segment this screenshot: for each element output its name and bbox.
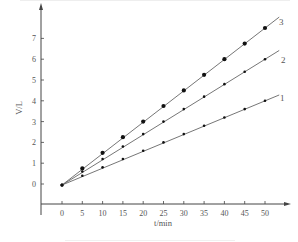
series-3: 3	[61, 17, 285, 187]
data-point-marker	[80, 166, 84, 170]
series-lines: 123	[61, 17, 286, 187]
data-point-marker	[161, 104, 165, 108]
series-line	[62, 95, 279, 185]
data-point-marker	[141, 120, 145, 124]
series-label-2: 2	[281, 55, 286, 65]
x-tick-label: 50	[261, 209, 269, 218]
y-axis-arrow-icon	[39, 3, 43, 10]
data-point-marker	[203, 95, 206, 98]
data-point-marker	[142, 149, 145, 152]
x-tick-label: 25	[160, 209, 168, 218]
x-tick-label: 0	[60, 209, 64, 218]
x-tick-label: 40	[220, 209, 228, 218]
series-label-1: 1	[280, 93, 285, 103]
data-point-marker	[243, 108, 246, 111]
data-point-marker	[122, 145, 125, 148]
series-label-3: 3	[279, 17, 284, 27]
data-point-marker	[264, 100, 267, 103]
data-point-marker	[203, 124, 206, 127]
data-point-marker	[101, 166, 104, 169]
y-tick-label: 6	[32, 55, 36, 64]
data-point-marker	[263, 26, 267, 30]
y-tick-label: 4	[32, 97, 36, 106]
data-point-marker	[222, 57, 226, 61]
x-tick-label: 35	[200, 209, 208, 218]
data-point-marker	[162, 120, 165, 123]
data-point-marker	[101, 158, 104, 161]
data-point-marker	[162, 141, 165, 144]
y-tick-label: 7	[32, 34, 36, 43]
y-tick-label: 1	[32, 159, 36, 168]
series-2: 2	[61, 50, 286, 186]
data-point-marker	[101, 151, 105, 155]
data-point-marker	[183, 108, 186, 111]
data-point-marker	[223, 83, 226, 86]
series-1: 1	[61, 93, 285, 187]
axes	[39, 3, 291, 215]
y-tick-label: 0	[32, 180, 36, 189]
y-ticks: 01234567	[32, 34, 44, 189]
data-point-marker	[243, 70, 246, 73]
x-tick-label: 5	[80, 209, 84, 218]
data-point-marker	[121, 135, 125, 139]
data-point-marker	[81, 174, 84, 177]
y-axis-title: V/L	[14, 101, 24, 115]
data-point-marker	[202, 73, 206, 77]
data-point-marker	[264, 58, 267, 61]
line-chart: 05101520253035404550 01234567 123 t/min …	[0, 0, 298, 242]
data-point-marker	[243, 42, 247, 46]
data-point-marker	[182, 88, 186, 92]
series-line	[62, 17, 279, 185]
y-tick-label: 5	[32, 76, 36, 85]
data-point-marker	[223, 116, 226, 119]
x-tick-label: 20	[139, 209, 147, 218]
y-tick-label: 2	[32, 138, 36, 147]
x-tick-label: 10	[99, 209, 107, 218]
series-line	[62, 50, 279, 185]
data-point-marker	[183, 133, 186, 136]
data-point-marker	[122, 158, 125, 161]
y-tick-label: 3	[32, 118, 36, 127]
x-tick-label: 15	[119, 209, 127, 218]
x-axis-arrow-icon	[284, 202, 291, 206]
x-axis-title: t/min	[154, 218, 173, 228]
x-tick-label: 45	[241, 209, 249, 218]
data-point-marker	[142, 133, 145, 136]
x-tick-label: 30	[180, 209, 188, 218]
data-point-marker	[61, 184, 64, 187]
